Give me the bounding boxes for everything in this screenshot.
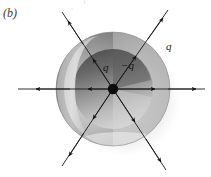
- label-cavity-charge-minus-q: −q: [121, 60, 134, 71]
- physics-figure-panel-b: (b) q −q q: [0, 0, 211, 177]
- label-shell-charge-q: q: [166, 41, 172, 52]
- point-charge-dot: [108, 84, 118, 94]
- top-edge-artifact: [71, 0, 85, 10]
- panel-label: (b): [3, 7, 17, 19]
- label-inner-charge-q: q: [103, 62, 109, 73]
- spherical-shell-field-diagram: [0, 0, 211, 177]
